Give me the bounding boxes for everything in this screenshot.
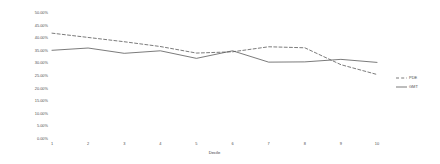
y-axis-tick-label: 45.00% [2, 24, 48, 28]
x-axis-tick-label: 8 [295, 141, 315, 146]
y-axis-tick-label: 30.00% [2, 61, 48, 65]
x-axis-tick-label: 4 [150, 141, 170, 146]
y-axis-tick-label: 15.00% [2, 99, 48, 103]
series-line-gmt [52, 48, 377, 62]
x-axis-tick-label: 5 [186, 141, 206, 146]
series-line-pde [52, 33, 377, 74]
y-axis-tick-label: 50.00% [2, 11, 48, 15]
x-axis-tick-label: 1 [42, 141, 62, 146]
solid-line-icon [396, 85, 407, 89]
chart-legend: PDEGMT [396, 73, 440, 91]
y-axis-tick-label: 20.00% [2, 87, 48, 91]
series-lines [52, 13, 377, 139]
legend-label: GMT [409, 84, 418, 89]
x-axis-tick-label: 2 [78, 141, 98, 146]
y-axis-tick-label: 10.00% [2, 112, 48, 116]
dashed-line-icon [396, 76, 407, 80]
x-axis-title: Decile [52, 150, 377, 156]
y-axis-tick-label: 40.00% [2, 36, 48, 40]
legend-item[interactable]: PDE [396, 73, 440, 82]
y-axis-tick-label: 5.00% [2, 124, 48, 128]
legend-label: PDE [409, 75, 417, 80]
x-axis-tick-label: 3 [114, 141, 134, 146]
x-axis-tick-label: 10 [367, 141, 387, 146]
line-chart: Discount/mortality ratio 50.00%45.00%40.… [0, 0, 440, 164]
y-axis-tick-label: 35.00% [2, 49, 48, 53]
y-axis-tick-labels: 50.00%45.00%40.00%35.00%30.00%25.00%20.0… [0, 0, 50, 164]
x-axis-tick-label: 9 [331, 141, 351, 146]
plot-area [52, 13, 377, 139]
x-axis-tick-label: 7 [259, 141, 279, 146]
x-axis-tick-label: 6 [223, 141, 243, 146]
y-axis-tick-label: 25.00% [2, 74, 48, 78]
legend-item[interactable]: GMT [396, 82, 440, 91]
